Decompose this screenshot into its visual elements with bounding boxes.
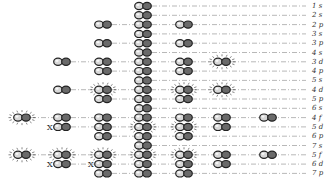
electron-pair-icon bbox=[53, 160, 71, 168]
x-mark: X bbox=[88, 160, 94, 169]
orbital-label: 3 p bbox=[312, 39, 323, 47]
electron-pair-icon bbox=[134, 11, 152, 19]
electron-pair-icon bbox=[213, 160, 231, 168]
orbital-row bbox=[134, 2, 306, 10]
orbital-row bbox=[94, 67, 306, 75]
electron-pair-icon bbox=[134, 49, 152, 57]
electron-pair-icon bbox=[134, 21, 152, 29]
electron-pair-icon bbox=[94, 169, 112, 177]
electron-pair-icon bbox=[213, 123, 231, 131]
electron-pair-icon bbox=[134, 160, 152, 168]
electron-pair-icon bbox=[94, 132, 112, 140]
electron-pair-icon bbox=[134, 169, 152, 177]
electron-pair-icon bbox=[175, 67, 193, 75]
orbital-row bbox=[134, 104, 306, 112]
orbital-row bbox=[94, 39, 306, 47]
orbital-diagram: XXX bbox=[0, 0, 331, 184]
electron-pair-icon bbox=[94, 21, 112, 29]
orbital-label: 3 s bbox=[312, 30, 322, 38]
electron-pair-icon bbox=[134, 95, 152, 103]
electron-pair-icon bbox=[259, 114, 277, 122]
orbital-row bbox=[94, 169, 306, 177]
electron-pair-icon bbox=[53, 114, 71, 122]
orbital-label: 5 p bbox=[312, 95, 323, 103]
electron-pair-icon bbox=[175, 58, 193, 66]
orbital-label: 2 p bbox=[312, 21, 323, 29]
orbital-label: 2 s bbox=[312, 11, 322, 19]
orbital-row bbox=[134, 11, 306, 19]
orbital-label: 4 s bbox=[312, 49, 322, 57]
orbital-row bbox=[94, 132, 306, 140]
orbital-row: X bbox=[47, 119, 306, 134]
orbital-row bbox=[9, 147, 307, 162]
orbital-label: 4 d bbox=[312, 86, 323, 94]
electron-pair-icon bbox=[53, 58, 71, 66]
orbital-label: 4 f bbox=[312, 114, 321, 122]
orbital-label: 5 d bbox=[312, 123, 323, 131]
electron-pair-icon bbox=[134, 132, 152, 140]
electron-pair-icon bbox=[134, 104, 152, 112]
orbital-label: 7 p bbox=[312, 169, 323, 177]
electron-pair-icon bbox=[175, 95, 193, 103]
orbital-label: 5 f bbox=[312, 151, 321, 159]
electron-pair-icon bbox=[134, 86, 152, 94]
electron-pair-icon bbox=[175, 160, 193, 168]
electron-pair-icon bbox=[53, 86, 71, 94]
electron-pair-icon bbox=[134, 2, 152, 10]
electron-pair-icon bbox=[134, 67, 152, 75]
orbital-row bbox=[134, 49, 306, 57]
orbital-label: 6 d bbox=[312, 160, 323, 168]
orbital-label: 1 s bbox=[312, 2, 322, 10]
x-mark: X bbox=[47, 160, 53, 169]
electron-pair-icon bbox=[94, 67, 112, 75]
orbital-label: 4 p bbox=[312, 67, 323, 75]
electron-pair-icon bbox=[175, 21, 193, 29]
orbital-label: 6 s bbox=[312, 104, 322, 112]
electron-pair-icon bbox=[94, 58, 112, 66]
orbital-row bbox=[134, 30, 306, 38]
orbital-label: 5 s bbox=[312, 76, 322, 84]
orbital-row bbox=[94, 95, 306, 103]
orbital-row bbox=[9, 110, 307, 125]
electron-pair-icon bbox=[94, 114, 112, 122]
electron-pair-icon bbox=[94, 39, 112, 47]
electron-pair-icon bbox=[134, 39, 152, 47]
electron-pair-icon bbox=[213, 151, 231, 159]
x-mark: X bbox=[47, 123, 53, 132]
orbital-row bbox=[94, 21, 306, 29]
electron-pair-icon bbox=[94, 160, 112, 168]
electron-pair-icon bbox=[94, 123, 112, 131]
electron-pair-icon bbox=[259, 151, 277, 159]
orbital-label: 3 d bbox=[312, 58, 323, 66]
electron-pair-icon bbox=[175, 132, 193, 140]
orbital-label: 6 p bbox=[312, 132, 323, 140]
orbital-row bbox=[134, 76, 306, 84]
electron-pair-icon bbox=[94, 95, 112, 103]
orbital-row bbox=[134, 142, 306, 150]
electron-pair-icon bbox=[53, 123, 71, 131]
electron-pair-icon bbox=[213, 114, 231, 122]
electron-pair-icon bbox=[134, 58, 152, 66]
orbital-row: XX bbox=[47, 160, 306, 169]
electron-pair-icon bbox=[175, 169, 193, 177]
electron-pair-icon bbox=[134, 30, 152, 38]
orbital-label: 7 s bbox=[312, 142, 322, 150]
electron-pair-icon bbox=[175, 39, 193, 47]
electron-pair-icon bbox=[134, 76, 152, 84]
